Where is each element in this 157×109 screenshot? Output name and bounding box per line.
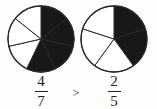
fraction-comparison-figure: 4 7 > 2 5 [0,0,157,109]
fraction-left: 4 7 [26,74,56,109]
fraction-left-bar [35,91,48,92]
fraction-left-numerator: 4 [26,74,56,90]
fraction-right: 2 5 [99,74,129,109]
fraction-left-denominator: 7 [26,93,56,109]
fraction-right-bar [108,91,121,92]
fraction-right-denominator: 5 [99,93,129,109]
fraction-right-numerator: 2 [99,74,129,90]
fractions-row: 4 7 > 2 5 [0,74,157,109]
comparison-operator: > [66,86,86,99]
left-pie [8,6,74,72]
right-pie [81,6,147,72]
